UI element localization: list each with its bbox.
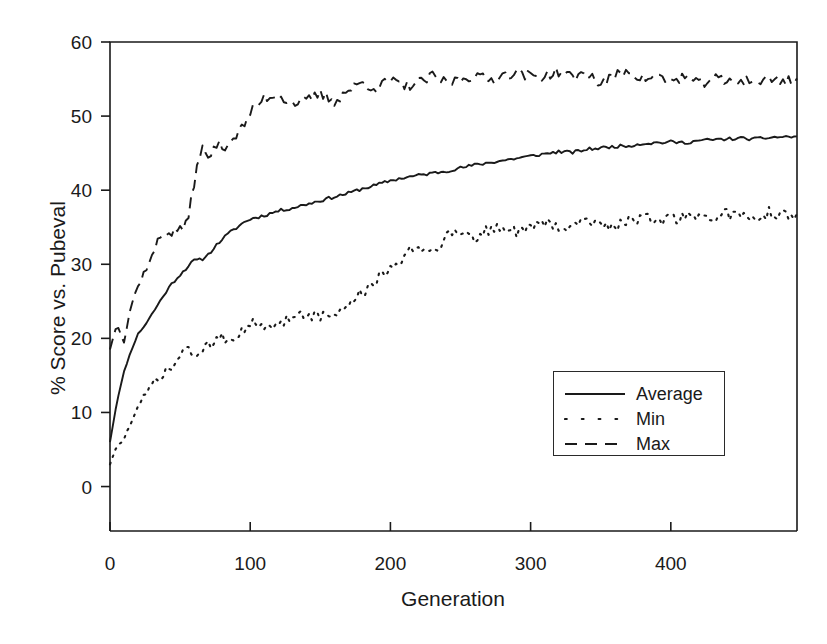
legend-item-average[interactable]: Average [554, 381, 726, 407]
x-tick-label: 200 [375, 554, 407, 573]
legend-label: Average [636, 384, 703, 405]
legend: AverageMinMax [553, 371, 725, 456]
x-axis-title: Generation [108, 587, 798, 611]
x-tick-label: 100 [234, 554, 266, 573]
legend-label: Max [636, 434, 670, 455]
chart-figure: 0102030405060 0100200300400 % Score vs. … [0, 0, 827, 644]
legend-swatch-min-icon [564, 412, 626, 426]
legend-item-min[interactable]: Min [554, 406, 726, 432]
series-line-max [110, 67, 797, 349]
x-tick-label: 300 [515, 554, 547, 573]
axes-frame [101, 42, 797, 531]
legend-swatch-max-icon [564, 437, 626, 451]
y-tick-label: 0 [40, 477, 92, 496]
y-tick-label: 50 [40, 107, 92, 126]
x-tick-label: 400 [655, 554, 687, 573]
y-axis-title: % Score vs. Pubeval [46, 148, 70, 448]
plot-canvas [0, 0, 827, 644]
x-tick-label: 0 [105, 554, 116, 573]
legend-label: Min [636, 409, 665, 430]
y-tick-label: 60 [40, 33, 92, 52]
legend-item-max[interactable]: Max [554, 431, 726, 457]
legend-swatch-average-icon [564, 387, 626, 401]
